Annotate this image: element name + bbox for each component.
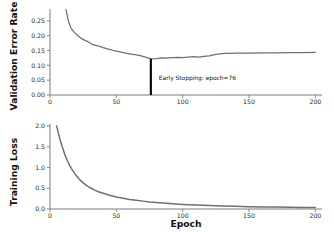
figure-canvas: Validation Error Rate 0.000.050.100.150.… <box>0 0 334 232</box>
bottom-tick-marks <box>47 126 315 212</box>
x-tick-label: 100 <box>177 98 189 105</box>
y-tick-label: 1.5 <box>35 143 45 150</box>
y-tick-label: 0.0 <box>35 205 45 212</box>
bottom-y-axis-title: Training Loss <box>8 137 19 206</box>
training-curves-figure: Validation Error Rate 0.000.050.100.150.… <box>0 0 334 232</box>
y-tick-label: 1.0 <box>35 164 45 171</box>
training-loss-curve <box>57 126 316 207</box>
y-tick-label: 0.5 <box>35 184 45 191</box>
top-y-axis-title: Validation Error Rate <box>8 2 19 111</box>
top-axes-spines <box>50 9 322 95</box>
x-tick-label: 0 <box>48 98 52 105</box>
y-tick-label: 0.00 <box>31 91 45 98</box>
x-tick-label: 50 <box>112 212 120 219</box>
top-tick-marks <box>47 21 315 98</box>
x-tick-label: 200 <box>309 98 321 105</box>
y-tick-label: 2.0 <box>35 122 45 129</box>
y-tick-label: 0.15 <box>31 47 45 54</box>
y-tick-label: 0.05 <box>31 76 45 83</box>
top-x-tick-labels: 050100150200 <box>48 98 321 105</box>
y-tick-label: 0.10 <box>31 62 45 69</box>
x-tick-label: 200 <box>309 212 321 219</box>
early-stopping-label: Early Stopping: epoch=76 <box>159 75 236 82</box>
x-tick-label: 50 <box>112 98 120 105</box>
x-tick-label: 150 <box>243 212 255 219</box>
y-tick-label: 0.20 <box>31 32 45 39</box>
x-tick-label: 0 <box>48 212 52 219</box>
panel-validation-error: Validation Error Rate 0.000.050.100.150.… <box>8 2 322 111</box>
y-tick-label: 0.25 <box>31 17 45 24</box>
x-tick-label: 150 <box>243 98 255 105</box>
validation-error-curve <box>66 10 315 59</box>
bottom-x-axis-title: Epoch <box>170 218 201 229</box>
panel-training-loss: Training Loss 0.00.51.01.52.0 0501001502… <box>8 122 322 229</box>
top-y-tick-labels: 0.000.050.100.150.200.25 <box>31 17 45 98</box>
bottom-axes-spines <box>50 124 322 209</box>
bottom-y-tick-labels: 0.00.51.01.52.0 <box>35 122 45 212</box>
